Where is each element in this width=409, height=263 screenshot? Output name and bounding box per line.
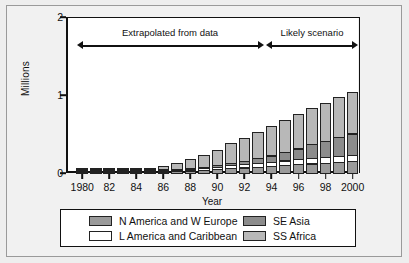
arrow-head-right-icon xyxy=(352,41,358,49)
x-axis-tick-label: 84 xyxy=(130,181,142,193)
bar-segment xyxy=(306,108,318,145)
legend-column-left: N America and W EuropeL America and Cari… xyxy=(89,214,237,244)
arrow-line xyxy=(82,45,259,47)
legend-label: SS Africa xyxy=(273,230,316,242)
bar-segment xyxy=(144,172,156,174)
bar-segment xyxy=(225,143,237,163)
bar-stack xyxy=(76,168,88,173)
x-axis-tick-label: 82 xyxy=(103,181,115,193)
bar-segment xyxy=(306,164,318,174)
bar-stack xyxy=(103,168,115,173)
bar-segment xyxy=(266,126,278,156)
bar-stack xyxy=(293,114,305,173)
x-axis-tick-mark xyxy=(271,173,273,179)
x-axis-tick-label: 88 xyxy=(185,181,197,193)
legend-swatch xyxy=(243,231,266,241)
x-axis-tick-mark xyxy=(190,173,192,179)
legend-label: N America and W Europe xyxy=(119,215,237,227)
x-axis-tick-mark xyxy=(163,173,165,179)
arrow-head-right-icon xyxy=(258,41,264,49)
bar-stack xyxy=(158,166,170,173)
annotation-label: Likely scenario xyxy=(281,27,344,38)
bar-stack xyxy=(333,97,345,173)
legend-item: N America and W Europe xyxy=(89,214,237,228)
x-axis-tick-label: 2000 xyxy=(341,181,364,193)
x-axis-tick-mark xyxy=(298,173,300,179)
plot-right-border xyxy=(359,17,360,173)
chart-legend: N America and W EuropeL America and Cari… xyxy=(60,209,356,247)
bar-stack xyxy=(212,150,224,173)
y-axis-tick-mark xyxy=(60,172,66,174)
x-axis-label: Year xyxy=(202,196,222,207)
x-axis-tick-mark xyxy=(325,173,327,179)
bar-segment xyxy=(347,161,359,173)
y-axis-label: Millions xyxy=(20,61,31,96)
bar-segment xyxy=(239,168,251,174)
bar-segment xyxy=(279,165,291,174)
figure-background: Millions 012 19808284868890929496982000 … xyxy=(0,0,409,263)
legend-item: SS Africa xyxy=(243,229,316,243)
annotation-label: Extrapolated from data xyxy=(122,27,218,38)
bar-stack xyxy=(185,159,197,173)
bar-segment xyxy=(279,120,291,153)
legend-item: L America and Caribbean xyxy=(89,229,237,243)
bar-segment xyxy=(347,134,359,156)
bar-stack xyxy=(347,92,359,173)
y-axis-tick-mark xyxy=(60,94,66,96)
legend-label: L America and Caribbean xyxy=(119,230,237,242)
x-axis-tick-label: 90 xyxy=(212,181,224,193)
arrow-head-left-icon xyxy=(77,41,83,49)
bar-segment xyxy=(212,150,224,166)
x-axis-tick-label: 1980 xyxy=(71,181,94,193)
legend-swatch xyxy=(89,216,112,226)
bar-segment xyxy=(103,172,115,174)
arrow-head-left-icon xyxy=(266,41,272,49)
bar-segment xyxy=(130,172,142,174)
plot-top-border xyxy=(68,17,360,18)
bar-stack xyxy=(90,168,102,173)
bar-stack xyxy=(306,108,318,173)
legend-item: SE Asia xyxy=(243,214,316,228)
bar-stack xyxy=(117,168,129,173)
y-axis-tick-mark xyxy=(60,16,66,18)
bar-segment xyxy=(320,141,332,158)
bar-stack xyxy=(144,168,156,173)
bar-segment xyxy=(306,144,318,159)
legend-swatch xyxy=(89,231,112,241)
bar-segment xyxy=(90,172,102,174)
bar-segment xyxy=(171,171,183,173)
x-axis-tick-label: 92 xyxy=(239,181,251,193)
bar-stack xyxy=(320,103,332,174)
x-axis-tick-mark xyxy=(244,173,246,179)
x-axis-tick-label: 98 xyxy=(320,181,332,193)
arrow-line xyxy=(271,45,353,47)
legend-label: SE Asia xyxy=(273,215,310,227)
bar-segment xyxy=(117,172,129,174)
bar-segment xyxy=(225,168,237,173)
bar-segment xyxy=(333,97,345,138)
x-axis-tick-label: 86 xyxy=(157,181,169,193)
bar-segment xyxy=(293,114,305,149)
bar-stack xyxy=(225,143,237,173)
bar-stack xyxy=(198,155,210,173)
bar-segment xyxy=(252,132,264,159)
bar-segment xyxy=(333,137,345,157)
bar-segment xyxy=(198,155,210,167)
bar-stack xyxy=(266,126,278,173)
bar-segment xyxy=(320,163,332,174)
bar-segment xyxy=(293,164,305,173)
bar-segment xyxy=(252,167,264,174)
bar-stack xyxy=(171,163,183,173)
x-axis-tick-mark xyxy=(135,173,137,179)
bar-segment xyxy=(239,138,251,162)
x-axis-tick-mark xyxy=(81,173,83,179)
bar-segment xyxy=(198,170,210,174)
bar-segment xyxy=(76,172,88,174)
bar-segment xyxy=(212,169,224,174)
bar-stack xyxy=(130,168,142,173)
bar-stack xyxy=(252,132,264,173)
legend-swatch xyxy=(243,216,266,226)
bar-stack xyxy=(239,138,251,173)
x-axis-tick-mark xyxy=(217,173,219,179)
bar-stack xyxy=(279,120,291,173)
